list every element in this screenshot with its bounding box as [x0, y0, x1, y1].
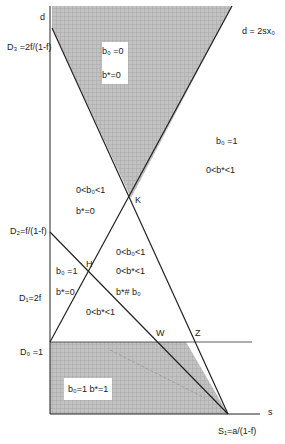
region-right-line1: b₀ =1	[216, 136, 238, 146]
region-right-line2: 0<b*<1	[206, 165, 235, 175]
tick-d3: D₃ =2f/(1-f)	[7, 42, 51, 52]
y-axis-label: d	[40, 12, 45, 22]
tick-d0: D₀ =1	[20, 347, 43, 357]
region-center-line2: 0<b*<1	[116, 266, 145, 276]
tick-s1: S₁=a/(1-f)	[218, 426, 256, 436]
tick-d2: D₂=f/(1-f)	[10, 226, 47, 236]
point-z: Z	[195, 328, 201, 338]
region-center-line1: 0<b₀<1	[116, 247, 145, 257]
tick-d1: D₁=2f	[19, 293, 41, 303]
region-bottom-shaded: b₀=1 b*=1	[64, 378, 112, 400]
region-top-line2: b*=0	[102, 70, 128, 80]
upper-line-label: d = 2sx₀	[242, 26, 275, 36]
region-bottom-triangle: 0<b*<1	[86, 307, 115, 317]
region-top-line1: b₀ =0	[102, 46, 128, 56]
point-h: H	[86, 259, 93, 269]
region-left-middle-line1: 0<b₀<1	[76, 185, 105, 195]
region-left-lower-line2: b*=0	[56, 287, 75, 297]
point-k: K	[135, 195, 141, 205]
point-w: W	[156, 328, 165, 338]
region-center-line3: b*# b₀	[116, 287, 141, 297]
diagram-canvas	[0, 0, 285, 444]
region-left-lower-line1: b₀ =1	[56, 266, 78, 276]
region-left-middle-line2: b*=0	[76, 206, 95, 216]
x-axis-label: s	[268, 407, 273, 417]
top-shaded-region	[52, 6, 232, 198]
region-top-shaded: b₀ =0 b*=0	[102, 42, 128, 84]
